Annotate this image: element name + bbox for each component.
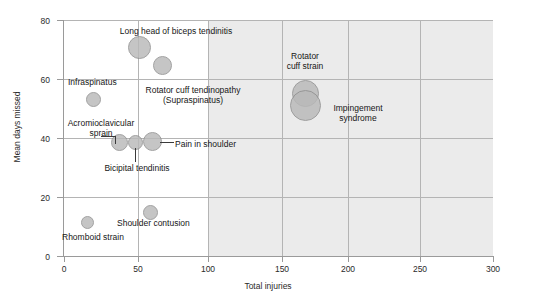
x-tick-150 (282, 256, 283, 262)
x-ticklabel-200: 200 (328, 264, 368, 274)
annot-rotator-cuff-strain-line1: Rotator (265, 51, 345, 61)
x-tick-300 (493, 256, 494, 262)
y-tick-40 (57, 138, 64, 139)
annot-shoulder-contusion: Shoulder contusion (117, 218, 190, 228)
y-ticklabel-20: 20 (10, 193, 50, 203)
gridline-y-60 (64, 79, 493, 80)
leader-bicipital-v (135, 148, 136, 162)
y-tick-0 (57, 256, 64, 257)
x-tick-100 (208, 256, 209, 262)
annot-impingement-syndrome-line1: Impingement (318, 103, 398, 113)
x-ticklabel-250: 250 (400, 264, 440, 274)
annot-bicipital-tendinitis: Bicipital tendinitis (92, 163, 182, 173)
x-tick-200 (348, 256, 349, 262)
x-tick-250 (420, 256, 421, 262)
annot-rhomboid-strain: Rhomboid strain (62, 232, 124, 242)
x-ticklabel-50: 50 (118, 264, 158, 274)
x-axis-spine (63, 256, 494, 257)
y-tick-60 (57, 79, 64, 80)
x-ticklabel-300: 300 (473, 264, 513, 274)
bubble-long-head-of-biceps-tendinitis[interactable] (128, 36, 151, 59)
leader-pain-in-shoulder-h (160, 142, 174, 143)
bubble-rhomboid-strain[interactable] (81, 216, 94, 229)
bubble-infraspinatus[interactable] (86, 92, 101, 107)
gridline-y-20 (64, 197, 493, 198)
annot-rotator-cuff-tendinopathy: Rotator cuff tendinopathy (118, 85, 268, 95)
leader-acromioclavicular-h (101, 136, 115, 137)
x-axis-label: Total injuries (0, 281, 536, 291)
y-axis-label: Mean days missed (12, 67, 22, 187)
x-tick-50 (138, 256, 139, 262)
annot-infraspinatus: Infraspinatus (68, 77, 117, 87)
y-tick-80 (57, 20, 64, 21)
x-ticklabel-100: 100 (188, 264, 228, 274)
annot-impingement-syndrome-line2: syndrome (318, 113, 398, 123)
annot-acromioclavicular: Acromioclavicular (55, 118, 147, 128)
y-tick-20 (57, 197, 64, 198)
annot-long-head-of-biceps-tendinitis: Long head of biceps tendinitis (86, 26, 266, 36)
annot-rotator-cuff-strain-line2: cuff strain (265, 61, 345, 71)
bubble-chart-figure: 80 60 40 20 0 0 50 100 150 200 250 300 T… (0, 0, 536, 306)
annot-supraspinatus: (Supraspinatus) (118, 95, 268, 105)
x-tick-0 (64, 256, 65, 262)
annot-pain-in-shoulder: Pain in shoulder (175, 139, 236, 149)
y-ticklabel-0: 0 (10, 252, 50, 262)
gridline-y-80 (64, 20, 493, 21)
x-ticklabel-0: 0 (44, 264, 84, 274)
y-ticklabel-80: 80 (10, 16, 50, 26)
bubble-impingement-syndrome[interactable] (290, 90, 321, 121)
bubble-rotator-cuff-tendinopathy-supraspinatus[interactable] (153, 56, 172, 75)
leader-acromioclavicular-v (115, 136, 116, 144)
x-ticklabel-150: 150 (262, 264, 302, 274)
